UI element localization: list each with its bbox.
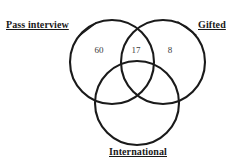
set-label-international: International	[109, 146, 167, 157]
set-label-pass-interview: Pass interview	[6, 19, 69, 30]
region-count-gifted-only: 8	[162, 45, 178, 55]
region-count-pass-and-gifted: 17	[127, 45, 145, 55]
region-count-pass-only: 60	[90, 45, 108, 55]
set-label-gifted: Gifted	[198, 19, 226, 30]
